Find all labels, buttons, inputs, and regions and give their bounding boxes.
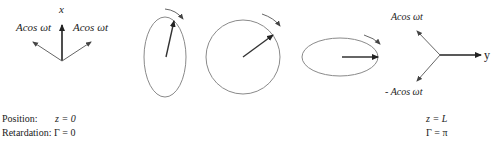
y-axis-label: y xyxy=(484,48,490,62)
field-vector-arrow xyxy=(243,35,273,57)
position-value: z = 0 xyxy=(54,113,76,124)
end-position-value: z = L xyxy=(425,113,448,124)
right-component-label: Acos ωt xyxy=(72,21,109,33)
x-axis-label: x xyxy=(58,3,64,15)
horizontal-ellipse-diagram xyxy=(302,35,380,76)
end-vector-diagram: y Acos ωt - Acos ωt xyxy=(385,11,490,97)
start-vector-diagram: x Acos ωt Acos ωt xyxy=(15,3,109,61)
rotation-arrow-icon xyxy=(262,14,280,26)
upper-component-arrow xyxy=(417,31,440,55)
upper-component-label: Acos ωt xyxy=(390,11,423,22)
end-retardation-value: Γ = π xyxy=(426,127,447,138)
vertical-ellipse xyxy=(144,17,186,97)
captions: Position: z = 0 Retardation: Γ = 0 z = L… xyxy=(2,113,448,138)
lower-component-label: - Acos ωt xyxy=(385,86,423,97)
right-component-arrow xyxy=(62,42,91,61)
lower-component-arrow xyxy=(417,55,440,81)
left-component-arrow xyxy=(33,42,62,61)
vertical-ellipse-diagram xyxy=(144,9,186,97)
polarization-diagram: x Acos ωt Acos ωt y Acos ωt - Acos ωt Po… xyxy=(0,0,499,147)
position-label: Position: xyxy=(2,113,38,124)
retardation-value: Γ = 0 xyxy=(54,127,75,138)
circle-diagram xyxy=(206,14,280,94)
retardation-label: Retardation: xyxy=(2,127,51,138)
rotation-arrow-icon xyxy=(364,35,380,44)
field-vector-arrow xyxy=(166,21,174,57)
left-component-label: Acos ωt xyxy=(15,21,52,33)
